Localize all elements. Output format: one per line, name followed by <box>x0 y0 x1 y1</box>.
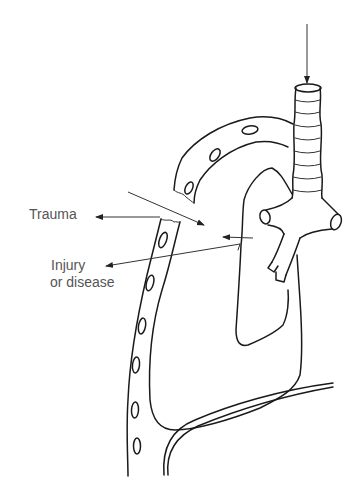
trauma-label: Trauma <box>29 206 77 223</box>
trachea <box>292 84 322 198</box>
chest-wall <box>127 219 301 476</box>
injury-label: Injury or disease <box>51 257 115 291</box>
injury-label-line1: Injury <box>51 257 115 274</box>
anatomy-illustration <box>0 0 361 498</box>
pneumothorax-diagram: Trauma Injury or disease <box>0 0 361 498</box>
upper-rib <box>174 117 293 203</box>
lung <box>236 168 292 345</box>
air-leak-arrow-horizontal <box>223 237 253 238</box>
injury-label-line2: or disease <box>50 274 115 291</box>
bronchi <box>258 198 343 282</box>
